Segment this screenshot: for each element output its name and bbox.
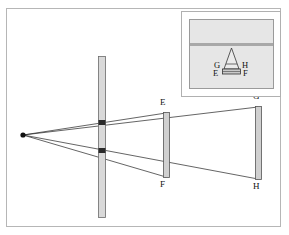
inset-label-E: E xyxy=(213,69,218,78)
prism-object xyxy=(223,48,241,74)
figure-canvas: E F G H G H E F xyxy=(0,0,289,235)
prism-triangle xyxy=(224,48,239,69)
inset-object-layer xyxy=(0,0,289,235)
inset-label-F: F xyxy=(243,69,248,78)
